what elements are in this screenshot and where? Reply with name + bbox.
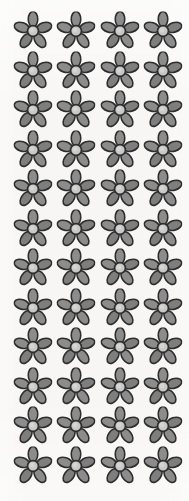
flower-petal [72, 130, 81, 145]
flower-1-2 [57, 11, 96, 50]
flower-center-highlight [116, 225, 121, 230]
flower-6-1 [13, 209, 52, 248]
flower-petal [158, 288, 167, 303]
flower-petal [28, 249, 37, 264]
flower-motif [100, 170, 139, 208]
flower-petal [158, 91, 167, 106]
flower-petal [115, 91, 124, 106]
flower-motif [143, 367, 182, 405]
flower-9-3 [100, 327, 139, 366]
flower-motif [57, 446, 96, 484]
flower-motif [143, 446, 182, 484]
flower-9-1 [13, 327, 52, 366]
flower-motif [143, 328, 182, 366]
flower-motif [13, 51, 52, 89]
flower-petal [115, 51, 124, 66]
flower-3-2 [57, 90, 96, 129]
flower-petal [28, 288, 37, 303]
flower-motif [143, 130, 182, 168]
flower-12-4 [143, 446, 182, 485]
flower-petal [158, 249, 167, 264]
flower-center-highlight [116, 185, 121, 190]
flower-center-highlight [73, 343, 78, 348]
flower-petal [28, 209, 37, 224]
flower-6-2 [57, 209, 96, 248]
flower-motif [57, 12, 96, 50]
flower-petal [158, 367, 167, 382]
flower-7-1 [13, 248, 52, 287]
flower-12-1 [13, 446, 52, 485]
flower-motif [57, 130, 96, 168]
flower-motif [13, 367, 52, 405]
flower-motif [143, 170, 182, 208]
flower-8-4 [143, 288, 182, 327]
flower-4-1 [13, 130, 52, 169]
flower-motif [13, 446, 52, 484]
flower-center-highlight [73, 304, 78, 309]
flower-petal [72, 446, 81, 461]
flower-center-highlight [73, 225, 78, 230]
flower-2-1 [13, 51, 52, 90]
flower-motif [13, 12, 52, 50]
flower-motif [100, 367, 139, 405]
flower-center-highlight [29, 422, 34, 427]
flower-petal [28, 91, 37, 106]
flower-motif [13, 209, 52, 247]
flower-motif [100, 288, 139, 326]
flower-motif [13, 288, 52, 326]
flower-7-4 [143, 248, 182, 287]
flower-1-3 [100, 11, 139, 50]
flower-10-2 [57, 367, 96, 406]
flower-center-highlight [73, 462, 78, 467]
flower-petal [158, 12, 167, 27]
flower-pattern-canvas [0, 0, 189, 501]
flower-motif [100, 130, 139, 168]
flower-motif [143, 249, 182, 287]
flower-petal [115, 170, 124, 185]
flower-center-highlight [29, 146, 34, 151]
flower-petal [158, 170, 167, 185]
flower-motif [100, 12, 139, 50]
flower-motif [100, 91, 139, 129]
flower-8-2 [57, 288, 96, 327]
flower-petal [115, 407, 124, 422]
flower-petal [72, 249, 81, 264]
flower-petal [72, 51, 81, 66]
flower-2-4 [143, 51, 182, 90]
flower-petal [28, 170, 37, 185]
flower-center-highlight [29, 67, 34, 72]
flower-center-highlight [29, 462, 34, 467]
flower-center-highlight [73, 67, 78, 72]
flower-center-highlight [73, 185, 78, 190]
flower-petal [158, 446, 167, 461]
flower-center-highlight [73, 422, 78, 427]
flower-petal [28, 328, 37, 343]
flower-petal [158, 209, 167, 224]
flower-motif [57, 328, 96, 366]
flower-motif [13, 249, 52, 287]
flower-center-highlight [159, 264, 164, 269]
flower-4-3 [100, 130, 139, 169]
flower-motif [100, 446, 139, 484]
flower-center-highlight [159, 462, 164, 467]
flower-2-2 [57, 51, 96, 90]
flower-center-highlight [29, 383, 34, 388]
flower-5-1 [13, 169, 52, 208]
flower-center-highlight [116, 343, 121, 348]
flower-petal [72, 288, 81, 303]
flower-motif [100, 209, 139, 247]
flower-6-4 [143, 209, 182, 248]
flower-7-2 [57, 248, 96, 287]
flower-petal [72, 367, 81, 382]
flower-10-4 [143, 367, 182, 406]
flower-2-3 [100, 51, 139, 90]
flower-petal [28, 12, 37, 27]
flower-12-3 [100, 446, 139, 485]
flower-center-highlight [159, 225, 164, 230]
flower-petal [115, 130, 124, 145]
flower-petal [28, 130, 37, 145]
flower-petal [115, 12, 124, 27]
flower-3-1 [13, 90, 52, 129]
flower-petal [115, 328, 124, 343]
flower-motif [143, 288, 182, 326]
